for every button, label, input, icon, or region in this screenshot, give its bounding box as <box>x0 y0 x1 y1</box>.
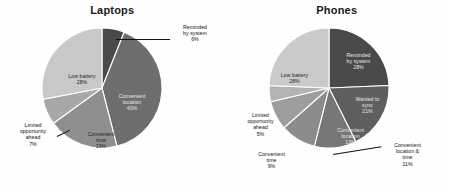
pie-slice <box>42 28 102 99</box>
phones-label-convenient-location: Convenient location 13% <box>329 127 373 146</box>
phones-label-convenient-time: Convenient time 9% <box>246 151 298 170</box>
phones-chart-panel: Phones Reminded by system 28% Wanted to … <box>225 0 449 192</box>
phones-label-low-battery: Low battery 28% <box>269 72 321 84</box>
pie-charts-figure: Laptops Reminded by system 6% Convenient… <box>0 0 449 192</box>
laptops-label-reminded: Reminded by system 6% <box>169 24 221 43</box>
laptops-leader-reminded <box>116 39 170 40</box>
phones-label-wanted-sync: Wanted to sync 21% <box>346 96 390 115</box>
laptops-chart-title: Laptops <box>0 4 225 16</box>
laptops-label-low-battery: Low battery 28% <box>57 73 107 85</box>
laptops-label-convenient-time: Convenient time 19% <box>79 131 123 150</box>
phones-label-convenient-location-time: Convenient location & time 11% <box>382 142 434 167</box>
phones-label-reminded: Reminded by system 28% <box>336 52 382 71</box>
laptops-chart-panel: Laptops Reminded by system 6% Convenient… <box>0 0 225 192</box>
laptops-label-limited-opportunity: Limited opportunity ahead 7% <box>9 122 57 147</box>
laptops-label-convenient-location: Convenient location 40% <box>110 93 154 112</box>
phones-chart-title: Phones <box>225 4 449 16</box>
phones-label-limited-opportunity: Limited opportunity ahead 5% <box>236 112 286 137</box>
